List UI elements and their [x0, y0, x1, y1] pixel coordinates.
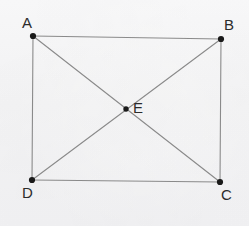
geometry-drawing	[0, 0, 249, 226]
point-b	[218, 36, 224, 42]
segment-cd	[32, 180, 220, 182]
segment-bc	[220, 39, 221, 182]
label-e: E	[133, 100, 143, 115]
label-c: C	[221, 187, 232, 202]
segment-da	[32, 36, 33, 180]
label-a: A	[22, 15, 32, 30]
label-d: D	[22, 185, 33, 200]
point-e	[123, 106, 128, 111]
point-a	[30, 33, 36, 39]
label-b: B	[224, 17, 234, 32]
point-c	[217, 179, 223, 185]
point-d	[29, 177, 35, 183]
geometry-figure: A B C D E	[0, 0, 249, 226]
segment-ab	[33, 36, 221, 39]
